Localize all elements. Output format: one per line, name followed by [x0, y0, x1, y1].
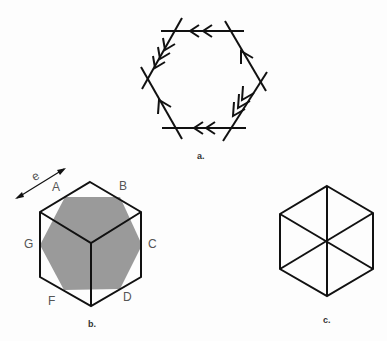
- figure-c: [280, 186, 373, 296]
- vertex-label-b: B: [119, 180, 127, 192]
- caption-c: c.: [323, 316, 331, 325]
- edge-lower-right: [223, 72, 267, 141]
- vertex-label-f: F: [48, 295, 55, 307]
- figure-a: [141, 18, 267, 141]
- arrow-icon: [242, 86, 254, 100]
- edge-upper-right: [225, 21, 266, 91]
- vertex-label-a: A: [52, 181, 60, 193]
- caption-a: a.: [197, 152, 205, 161]
- vertex-label-c: C: [148, 238, 157, 250]
- vertex-label-d: D: [123, 291, 132, 303]
- figure-canvas: a. e A B C D F G b. c.: [0, 0, 387, 341]
- vertex-label-g: G: [24, 238, 33, 250]
- caption-b: b.: [88, 320, 96, 329]
- edge-lower-left: [141, 67, 182, 139]
- diagram-svg: [0, 0, 387, 341]
